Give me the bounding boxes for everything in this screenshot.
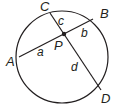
segment-label-c: c: [58, 14, 64, 28]
label-p-point: P: [54, 38, 63, 53]
segment-label-b: b: [81, 26, 88, 40]
segment-label-a: a: [37, 45, 44, 59]
intersecting-chords-diagram: A B C D P a b c d: [0, 0, 119, 107]
intersection-point-p: [62, 32, 66, 36]
label-a-point: A: [5, 54, 15, 69]
label-c-point: C: [40, 0, 50, 14]
label-d-point: D: [101, 91, 110, 106]
diagram-canvas: A B C D P a b c d: [0, 0, 119, 107]
segment-label-d: d: [71, 60, 78, 74]
label-b-point: B: [100, 6, 109, 21]
